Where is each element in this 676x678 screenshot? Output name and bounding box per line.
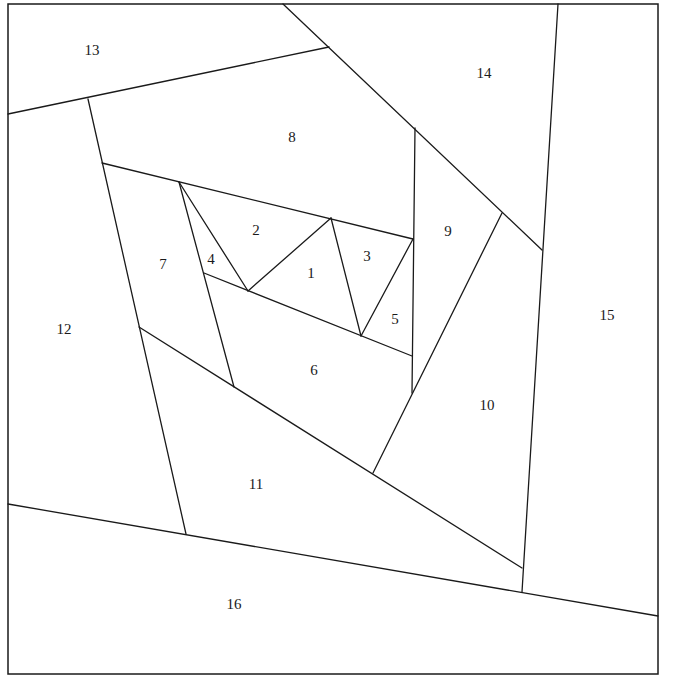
piece-label-10: 10 (480, 397, 495, 413)
piece-label-13: 13 (85, 42, 100, 58)
boundary-line-s2-4 (179, 182, 248, 291)
piece-label-16: 16 (227, 596, 243, 612)
piece-label-6: 6 (310, 362, 318, 378)
piece-label-11: 11 (249, 476, 263, 492)
piece-label-12: 12 (57, 321, 72, 337)
piece-label-4: 4 (207, 251, 215, 267)
boundary-line-s8-14 (283, 4, 542, 250)
piece-label-15: 15 (600, 307, 615, 323)
quilt-diagram: 12345678910111213141516 (0, 0, 676, 678)
boundary-line-s2-1 (248, 218, 331, 291)
boundary-line-s1-3 (331, 218, 361, 336)
boundary-line-s9-10 (373, 213, 502, 473)
piece-label-2: 2 (252, 222, 260, 238)
boundary-line-s13-8 (8, 47, 329, 114)
piece-label-3: 3 (363, 248, 371, 264)
outer-frame (8, 4, 658, 674)
frame-group (8, 4, 658, 674)
boundary-line-s16-top (8, 504, 658, 616)
boundary-line-s12-7 (88, 99, 186, 534)
piece-label-8: 8 (288, 129, 296, 145)
piece-boundaries (8, 4, 658, 616)
boundary-line-s11-top (139, 327, 522, 568)
piece-label-1: 1 (307, 265, 315, 281)
boundary-line-s7-6 (179, 182, 234, 387)
piece-label-5: 5 (391, 311, 399, 327)
piece-label-9: 9 (444, 223, 452, 239)
boundary-line-s4-6 (204, 273, 412, 356)
piece-label-7: 7 (159, 256, 167, 272)
boundary-line-s14-15 (522, 4, 558, 592)
boundary-line-s9-left (412, 128, 415, 393)
piece-label-14: 14 (477, 65, 493, 81)
